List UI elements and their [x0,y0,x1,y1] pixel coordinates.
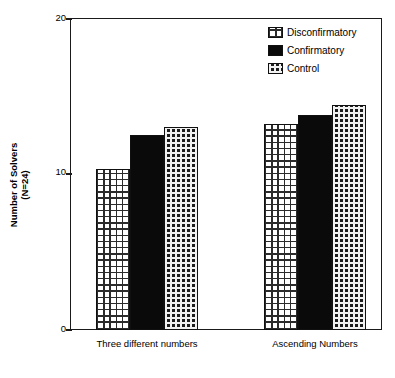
legend-item-control: Control [268,60,386,77]
y-tick-mark-0 [66,329,72,331]
y-axis-title: Number of Solvers (N=24) [2,100,36,270]
legend-label-disconfirmatory: Disconfirmatory [287,27,356,38]
x-label-three-different-numbers: Three different numbers [96,338,197,350]
y-axis-title-line2: (N=24) [19,143,30,227]
disconfirmatory-swatch-icon [268,27,283,38]
legend-label-confirmatory: Confirmatory [287,45,344,56]
confirmatory-swatch-icon [268,45,283,56]
legend-label-control: Control [287,63,319,74]
y-tick-mark-10 [66,173,72,175]
control-swatch-icon [268,63,283,74]
y-tick-label-20: 20 [36,13,66,23]
bar-chart-figure: Number of Solvers (N=24) 20 10 0 Disconf… [0,0,395,378]
x-label-ascending-numbers: Ascending Numbers [272,338,358,350]
y-tick-mark-20 [66,18,72,20]
y-tick-label-10: 10 [36,167,66,177]
legend-item-disconfirmatory: Disconfirmatory [268,24,386,41]
y-axis-title-line1: Number of Solvers [8,143,19,227]
x-axis-labels: Three different numbers Ascending Number… [70,338,382,354]
legend: Disconfirmatory Confirmatory Control [268,24,386,78]
legend-item-confirmatory: Confirmatory [268,42,386,59]
y-tick-label-0: 0 [36,324,66,334]
y-axis-tick-labels: 20 10 0 [34,0,66,378]
